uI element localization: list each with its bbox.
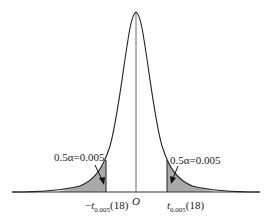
left-tail-annotation: 0.5α=0.005 — [54, 152, 104, 163]
origin-label: O — [132, 196, 140, 207]
right-tail-annotation: 0.5α=0.005 — [170, 155, 220, 166]
left-critical-value-label: −t0.005(18) — [85, 200, 128, 214]
right-critical-value-label: t0.005(18) — [167, 200, 204, 214]
t-distribution-plot — [0, 0, 269, 217]
left-tail-shade — [60, 160, 106, 192]
